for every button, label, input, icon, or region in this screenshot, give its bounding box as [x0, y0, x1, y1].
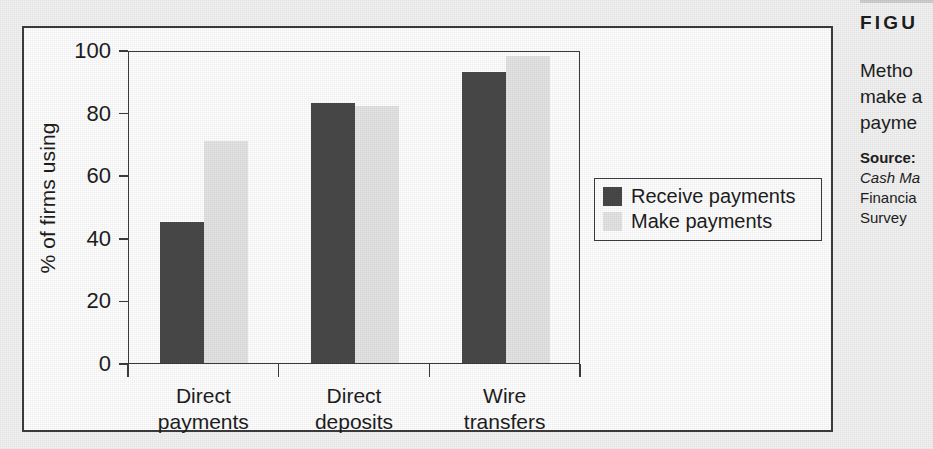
y-tick-label: 80	[59, 101, 111, 127]
bar	[311, 103, 355, 363]
source-line: Financia	[860, 188, 920, 208]
legend-label-make-payments: Make payments	[631, 210, 772, 233]
x-axis-tick	[278, 364, 280, 377]
bar	[204, 141, 248, 363]
plot-area	[128, 51, 580, 364]
x-axis-label-line: Wire	[415, 383, 595, 409]
bar	[355, 106, 399, 363]
figure-frame: % of firms using 020406080100 Directpaym…	[22, 26, 833, 432]
x-axis-tick	[579, 364, 581, 377]
y-tick-mark	[119, 238, 128, 240]
legend-swatch-make-payments	[603, 212, 622, 231]
y-tick-mark	[119, 50, 128, 52]
y-tick-mark	[119, 113, 128, 115]
caption-line: Metho	[860, 58, 922, 84]
caption-rule	[860, 0, 933, 3]
caption-line: make a	[860, 84, 922, 110]
x-axis-label-line: transfers	[415, 409, 595, 435]
source-label: Source:	[860, 148, 920, 168]
y-tick-label: 0	[59, 351, 111, 377]
x-axis-tick	[127, 364, 129, 377]
bar	[506, 56, 550, 363]
source-line: Cash Ma	[860, 168, 920, 188]
y-tick-mark	[119, 175, 128, 177]
legend-item: Make payments	[603, 209, 813, 234]
caption-source: Source:Cash MaFinanciaSurvey	[860, 148, 920, 228]
bar-chart: % of firms using 020406080100 Directpaym…	[24, 28, 835, 434]
y-tick-label: 100	[59, 38, 111, 64]
bar	[160, 222, 204, 363]
y-tick-label: 60	[59, 163, 111, 189]
y-tick-mark	[119, 301, 128, 303]
figure-kicker: FIGU	[860, 12, 918, 34]
legend-swatch-receive-payments	[603, 187, 622, 206]
x-axis-label: Wiretransfers	[415, 383, 595, 435]
caption-line: payme	[860, 110, 922, 136]
bar	[462, 72, 506, 363]
caption-body: Methomake apayme	[860, 58, 922, 136]
y-tick-label: 40	[59, 226, 111, 252]
legend-label-receive-payments: Receive payments	[631, 185, 796, 208]
caption-column: FIGU Methomake apayme Source:Cash MaFina…	[860, 0, 933, 449]
y-tick-label: 20	[59, 288, 111, 314]
legend-item: Receive payments	[603, 184, 813, 209]
x-axis-tick	[429, 364, 431, 377]
source-line: Survey	[860, 208, 920, 228]
legend: Receive payments Make payments	[594, 178, 822, 241]
y-axis-title: % of firms using	[36, 98, 60, 298]
